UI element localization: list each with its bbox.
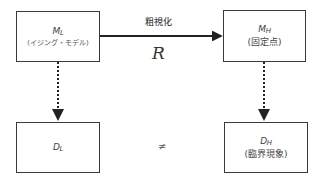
node-dh: DH (臨界現象) (224, 122, 308, 173)
coarse-graining-label: 粗視化 (145, 15, 172, 28)
node-dh-caption: (臨界現象) (244, 148, 287, 160)
node-mh-caption: (固定点) (247, 36, 281, 48)
node-mh-symbol: MH (258, 24, 270, 36)
renormalization-operator-symbol: R (152, 43, 165, 63)
node-mh: MH (固定点) (223, 10, 306, 62)
node-ml-symbol: ML (52, 26, 63, 38)
node-dh-symbol: DH (260, 136, 272, 148)
node-ml-caption: (イジング・モデル) (27, 38, 88, 48)
node-dl: DL (16, 122, 100, 173)
not-equal-symbol: ≠ (158, 141, 166, 152)
node-dl-symbol: DL (53, 142, 63, 154)
node-ml: ML (イジング・モデル) (16, 11, 100, 62)
